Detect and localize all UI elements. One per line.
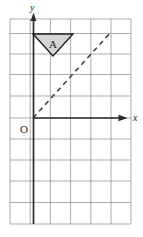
grid-vertical-lines (10, 19, 131, 224)
origin-label: O (20, 123, 28, 135)
x-axis-label: x (132, 112, 138, 123)
y-axis-label: y (29, 2, 35, 13)
x-axis-arrowhead (119, 115, 128, 121)
coordinate-diagram: A O x y (0, 0, 143, 237)
diagram-canvas: A O x y (0, 0, 143, 237)
triangle-A-label: A (49, 38, 57, 50)
y-axis-arrowhead (31, 13, 37, 22)
